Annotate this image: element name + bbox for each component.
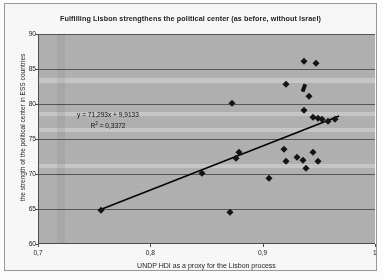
y-tick-mark bbox=[35, 69, 38, 70]
x-tick-label-0-7: 0,7 bbox=[33, 249, 42, 256]
y-tick-mark bbox=[35, 104, 38, 105]
y-tick-mark bbox=[35, 139, 38, 140]
scanned-page-frame: Fulfilling Lisbon strengthens the politi… bbox=[4, 3, 377, 271]
x-tick-mark bbox=[263, 244, 264, 247]
x-tick-label-0-9: 0,9 bbox=[258, 249, 267, 256]
y-tick-label-60: 60 bbox=[5, 240, 36, 247]
chart-title: Fulfilling Lisbon strengthens the politi… bbox=[5, 14, 376, 23]
x-axis-label: UNDP HDI as a proxy for the Lisbon proce… bbox=[38, 262, 375, 269]
x-tick-label-0-8: 0,8 bbox=[146, 249, 155, 256]
y-tick-mark bbox=[35, 34, 38, 35]
y-axis-label: the strength of the political center in … bbox=[19, 33, 26, 223]
y-axis: 90 85 80 75 70 65 60 bbox=[5, 34, 383, 244]
x-tick-label-1: 1 bbox=[373, 249, 377, 256]
x-tick-mark bbox=[150, 244, 151, 247]
x-tick-mark bbox=[375, 244, 376, 247]
y-tick-mark bbox=[35, 174, 38, 175]
y-tick-mark bbox=[35, 209, 38, 210]
x-tick-mark bbox=[38, 244, 39, 247]
